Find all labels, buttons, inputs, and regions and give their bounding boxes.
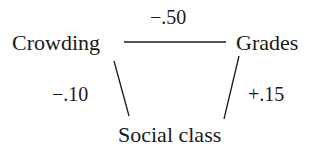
coef-crowding-grades: −.50 [150, 7, 186, 27]
edge-grades-social-class [224, 56, 239, 119]
coef-crowding-social-class: −.10 [52, 84, 88, 104]
edge-crowding-social-class [114, 61, 129, 116]
node-social-class: Social class [118, 124, 221, 146]
node-grades: Grades [236, 32, 298, 54]
node-crowding: Crowding [12, 32, 100, 54]
coef-grades-social-class: +.15 [248, 84, 284, 104]
